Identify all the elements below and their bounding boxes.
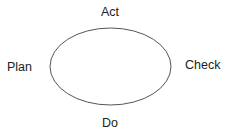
- label-act: Act: [101, 5, 119, 19]
- cycle-ellipse: [50, 28, 171, 105]
- label-check: Check: [185, 58, 220, 72]
- label-plan: Plan: [7, 60, 32, 74]
- label-do: Do: [102, 116, 118, 130]
